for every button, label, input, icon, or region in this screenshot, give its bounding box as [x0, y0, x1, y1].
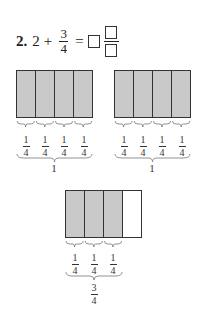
fraction-model-whole-2 — [114, 70, 191, 118]
shaded-part — [17, 71, 36, 117]
shaded-part — [66, 191, 85, 237]
plus-sign: + — [44, 33, 52, 50]
small-braces-icon — [65, 241, 123, 249]
total-label: 1 — [44, 162, 64, 174]
shaded-part — [36, 71, 55, 117]
equals-sign: = — [75, 33, 83, 50]
shaded-part — [134, 71, 153, 117]
fraction-model-whole-1 — [16, 70, 93, 118]
answer-whole-box[interactable] — [88, 35, 100, 48]
unshaded-part — [123, 191, 141, 237]
shaded-part — [55, 71, 74, 117]
shaded-part — [104, 191, 123, 237]
total-label-fraction: 34 — [87, 283, 101, 306]
shaded-part — [74, 71, 92, 117]
small-braces-icon — [114, 121, 191, 129]
problem-number: 2. — [16, 33, 27, 50]
small-braces-icon — [16, 121, 93, 129]
fraction-bar — [104, 41, 119, 42]
equation: 2. 2 + 3 4 = — [16, 24, 119, 58]
answer-numerator-box[interactable] — [105, 26, 117, 39]
shaded-part — [85, 191, 104, 237]
denominator: 4 — [60, 42, 67, 56]
fraction-three-fourths: 3 4 — [59, 27, 68, 56]
answer-denominator-box[interactable] — [105, 44, 117, 57]
whole-number: 2 — [32, 33, 40, 50]
shaded-part — [172, 71, 190, 117]
large-brace-icon — [65, 272, 123, 281]
numerator: 3 — [60, 27, 67, 41]
shaded-part — [115, 71, 134, 117]
answer-fraction — [104, 26, 119, 57]
shaded-part — [153, 71, 172, 117]
total-label: 1 — [142, 162, 162, 174]
fraction-model-three-fourths — [65, 190, 142, 238]
